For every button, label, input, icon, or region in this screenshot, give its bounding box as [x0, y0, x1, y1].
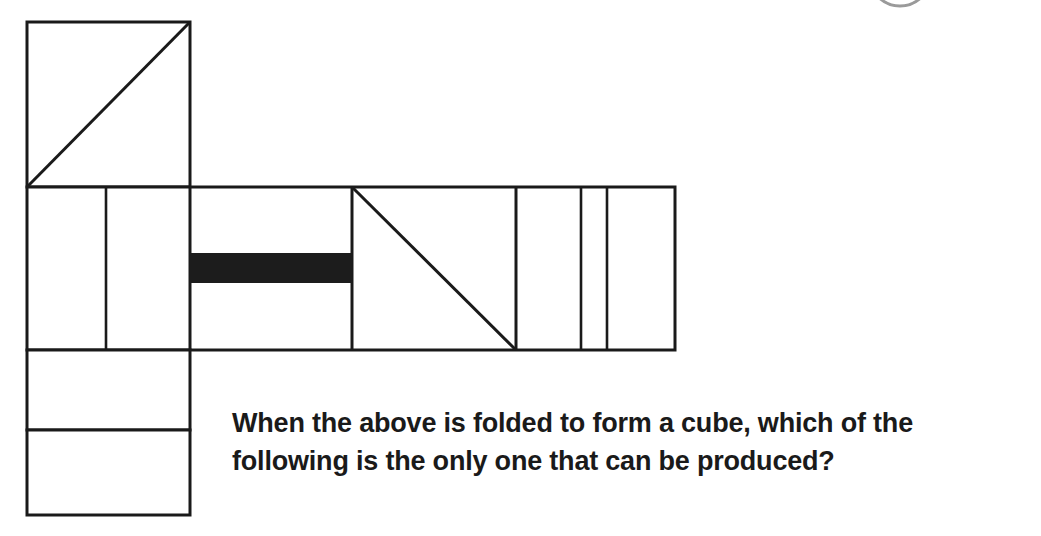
- net-bottom-faces: [27, 350, 190, 515]
- puzzle-page: When the above is folded to form a cube,…: [0, 0, 1041, 536]
- question-text: When the above is folded to form a cube,…: [232, 404, 1032, 480]
- solid-black-bar: [190, 253, 352, 283]
- net-middle-row: [27, 187, 675, 350]
- question-line-2: following is the only one that can be pr…: [232, 442, 1032, 480]
- question-line-1: When the above is folded to form a cube,…: [232, 404, 1032, 442]
- net-face-top: [27, 22, 190, 187]
- corner-arc-icon: [868, 0, 932, 6]
- net-face-bottom-2: [27, 430, 190, 515]
- net-face-bottom-1: [27, 350, 190, 430]
